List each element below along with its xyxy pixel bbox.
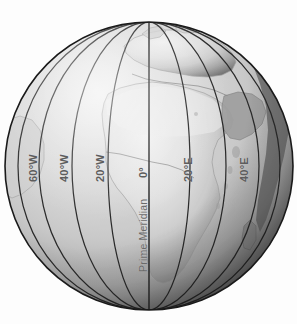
globe-shading-overlays: [5, 22, 293, 310]
globe-illustration: [0, 0, 297, 324]
globe-figure: 60°W 40°W 20°W 0° 20°E 40°E Prime Meridi…: [0, 0, 297, 324]
